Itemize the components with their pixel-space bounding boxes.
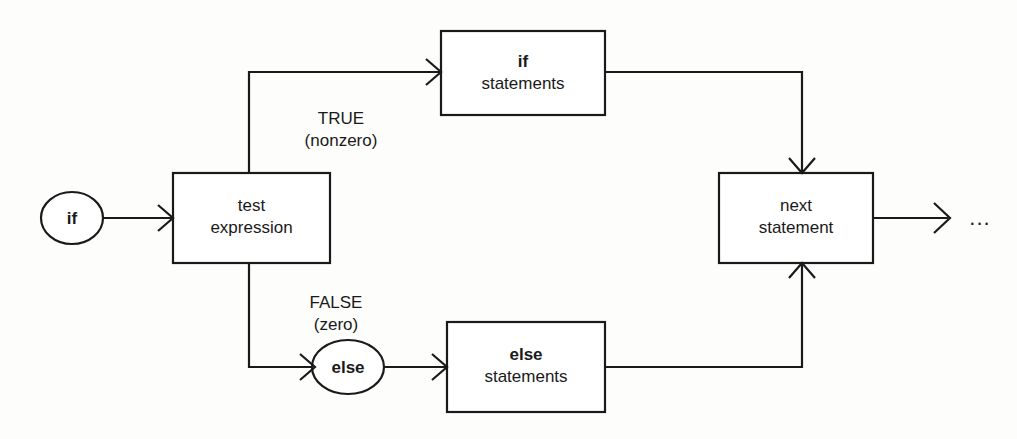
node-if-statements-line1: if: [441, 51, 605, 73]
node-else-statements-line1: else: [447, 344, 605, 366]
diagram-canvas: if test expression if statements else el…: [0, 0, 1017, 439]
edge-if-statements-to-next: [605, 72, 802, 172]
branch-label-true-line2: (nonzero): [261, 130, 421, 152]
branch-label-false-line2: (zero): [256, 314, 416, 336]
branch-label-false: FALSE (zero): [256, 292, 416, 336]
node-next-statement-line2: statement: [719, 217, 873, 239]
node-if-statements-label: if statements: [441, 51, 605, 95]
branch-label-false-line1: FALSE: [256, 292, 416, 314]
branch-label-true-line1: TRUE: [261, 108, 421, 130]
node-else-statements-line2: statements: [447, 366, 605, 388]
node-next-statement-line1: next: [719, 195, 873, 217]
node-else-statements-label: else statements: [447, 344, 605, 388]
node-if-entry-label: if: [42, 208, 102, 230]
continuation-ellipsis: ...: [958, 204, 1002, 233]
node-test-expression-line1: test: [173, 195, 330, 217]
branch-label-true: TRUE (nonzero): [261, 108, 421, 152]
edge-else-statements-to-next: [605, 264, 802, 367]
node-if-statements-line2: statements: [441, 73, 605, 95]
node-test-expression-line2: expression: [173, 217, 330, 239]
node-test-expression-label: test expression: [173, 195, 330, 239]
node-next-statement-label: next statement: [719, 195, 873, 239]
node-else-entry-label: else: [312, 357, 384, 379]
